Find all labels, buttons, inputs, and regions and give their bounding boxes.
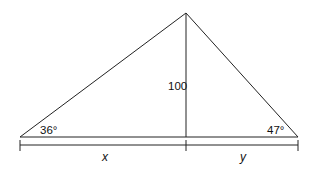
segment-x-label: x: [101, 150, 109, 164]
triangle-diagram: 100 36° 47° x y: [0, 0, 321, 174]
left-angle-label: 36°: [40, 124, 57, 136]
right-side: [186, 13, 298, 137]
left-side: [20, 13, 186, 137]
segment-y-label: y: [239, 150, 247, 164]
height-label: 100: [168, 80, 187, 92]
right-angle-label: 47°: [267, 124, 284, 136]
